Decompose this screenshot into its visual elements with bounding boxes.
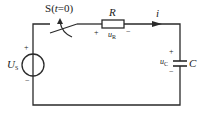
source-plus: + [24, 44, 29, 52]
wire-top-left [33, 24, 50, 55]
current-label: i [156, 8, 159, 19]
wire-bottom [33, 66, 180, 105]
switch-label: S(t=0) [45, 3, 73, 14]
source-label: US [7, 59, 18, 71]
capacitor-voltage-label: uC [160, 58, 168, 67]
capacitor-plus: + [169, 48, 174, 56]
resistor-minus: − [126, 28, 131, 36]
capacitor-minus: − [169, 68, 174, 76]
resistor-voltage-label: uR [108, 31, 116, 40]
resistor [102, 20, 124, 28]
capacitor-label: C [189, 58, 196, 69]
circuit-diagram [0, 0, 205, 117]
resistor-label: R [109, 7, 116, 18]
current-arrow-icon [152, 21, 162, 27]
switch-arrowhead-icon [57, 18, 63, 24]
source-minus: − [25, 77, 30, 85]
resistor-plus: + [94, 29, 99, 37]
